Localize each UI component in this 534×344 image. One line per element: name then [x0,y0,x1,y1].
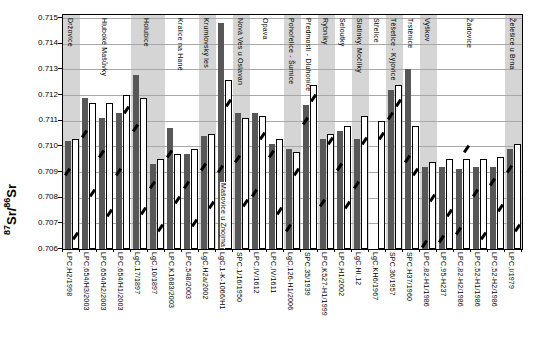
x-tick-label: LPC,I/1979 [508,252,515,289]
site-label: Střelice [373,18,380,43]
x-axis-tick [62,249,63,252]
white-bar [378,121,385,249]
site-label: Pohořelice - Šumice [288,18,295,84]
site-label: Držovice [67,18,74,47]
x-tick-label: LPC,K527-H1/1999 [321,252,328,316]
x-axis-tick [470,249,471,252]
x-tick-label: LPC,82-H2/1986 [457,252,464,307]
x-axis-tick [147,249,148,252]
sr-isotope-bar-chart: 87Sr/86Sr DržoviceHluboké MašůvkyHolubic… [0,0,534,344]
dark-bar [422,167,429,249]
x-axis-tick [317,249,318,252]
white-bar [89,103,96,249]
y-axis-title: 87Sr/86Sr [2,105,18,235]
x-tick-label: LPC,82-H1/1986 [423,252,430,307]
site-label: Slatinky, Močílky [356,18,363,73]
site-label: Kralice na Hané [177,18,184,71]
x-tick-label: LPC,IV/1612 [253,252,260,294]
dark-bar [337,131,344,249]
plot-area: DržoviceHluboké MašůvkyHolubiceKralice n… [62,14,523,250]
dark-bar [354,139,361,249]
y-axis-tick [58,120,62,121]
y-tick-label: 0.707 [30,218,58,227]
white-bar [123,95,130,249]
x-tick-label: LPC,K1683/2003 [168,252,175,308]
y-tick-label: 0.715 [30,13,58,22]
x-tick-label: LPC,H2/1998 [66,252,73,296]
dark-bar [286,149,293,249]
y-axis-title-superscript-86: 86 [2,198,12,208]
x-axis-tick [368,249,369,252]
site-label: Rybníky [322,18,329,45]
y-axis-tick [58,248,62,249]
x-tick-label: SPC,1/16/1950 [236,252,243,302]
y-axis-title-sr-slash: Sr/ [4,208,19,225]
y-tick-label: 0.713 [30,64,58,73]
site-label: Předmostí - Dluhonice [305,18,312,91]
dark-bar [456,169,463,249]
white-bar [429,162,436,249]
x-tick-label: LPC,654/H2/2003 [100,252,107,311]
site-label: Trstěnice [407,18,414,48]
y-axis-tick [58,17,62,18]
x-tick-label: LgC,126-H1/2006 [287,252,294,310]
white-bar [412,126,419,249]
x-axis-tick [96,249,97,252]
x-tick-label: LPC,95-H237 [440,252,447,297]
white-bar [497,157,504,249]
y-tick-label: 0.714 [30,38,58,47]
site-label: Mašovice u Znojma [220,182,227,248]
dark-bar [303,105,310,249]
dark-bar [473,167,480,249]
x-axis-tick [453,249,454,252]
white-bar [327,134,334,249]
site-label: Holubice [143,18,150,47]
x-axis-tick [385,249,386,252]
x-tick-label: LgC,KH6/1967 [372,252,379,300]
x-axis-tick [283,249,284,252]
x-tick-label: SPC,H37/1960 [406,252,413,301]
x-tick-label: LPC,654/H3/2003 [83,252,90,311]
x-tick-label: LPC,52-H2/1986 [491,252,498,307]
x-axis-tick [266,249,267,252]
dark-bar [320,139,327,249]
x-axis-tick [79,249,80,252]
x-tick-label: SPC,35/1939 [304,252,311,296]
white-bar [361,116,368,249]
site-label: Hluboké Mašůvky [101,18,108,76]
x-axis-tick [113,249,114,252]
y-tick-label: 0.711 [30,115,58,124]
site-label: Vyškov [424,18,431,42]
x-tick-label: LgC,1-K-1066/H1 [219,252,226,309]
x-tick-label: LgC,10/1897 [151,252,158,294]
site-label: Žádovice [466,18,473,48]
x-axis-tick [232,249,233,252]
white-bar [208,134,215,249]
dark-bar [82,98,89,249]
white-bar [310,85,317,249]
white-bar [191,149,198,249]
site-label: Těšetice - Kyjovice [390,18,397,81]
x-axis-tick [130,249,131,252]
white-bar [463,159,470,249]
y-tick-label: 0.712 [30,90,58,99]
white-bar [395,85,402,249]
white-bar [140,98,147,249]
dark-bar [184,154,191,249]
site-label: Opava [262,18,269,40]
dark-bar [201,136,208,249]
x-tick-label: LPC,IV/1611 [270,252,277,293]
y-axis-tick [58,197,62,198]
x-axis-tick [334,249,335,252]
white-bar [106,103,113,249]
x-axis-tick [198,249,199,252]
x-tick-label: LPC,654/H1/2003 [117,252,124,311]
white-bar [514,144,521,249]
x-axis-tick [249,249,250,252]
x-axis-tick [419,249,420,252]
x-axis-tick [436,249,437,252]
x-axis-tick [300,249,301,252]
white-bar [446,159,453,249]
x-axis-tick [351,249,352,252]
white-bar [242,118,249,249]
